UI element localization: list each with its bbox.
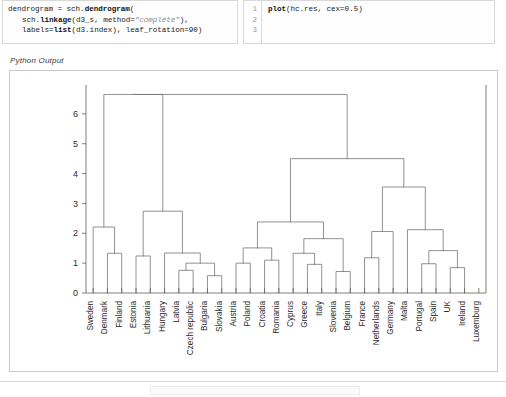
dendrogram-link	[372, 231, 393, 293]
dendrogram-link	[104, 94, 163, 227]
leaf-label: Denmark	[100, 300, 109, 334]
leaf-label: Sweden	[86, 301, 95, 331]
y-axis-tick-label: 5	[73, 139, 78, 149]
dendrogram-link	[186, 263, 215, 276]
code-keyword: plot	[268, 5, 286, 13]
dendrogram-link	[429, 251, 458, 268]
code-text: (hc.res, cex=0.5)	[286, 5, 363, 13]
leaf-label: Italy	[315, 300, 324, 316]
dendrogram-link	[165, 253, 201, 293]
dendrogram-link	[93, 227, 114, 293]
code-keyword: dendrogram	[85, 5, 130, 13]
dendrogram-link	[407, 230, 443, 293]
line-number: 1	[244, 4, 257, 15]
dendrogram-link	[293, 253, 314, 293]
leaf-labels: SwedenDenmarkFinlandEstoniaLithuaniaHung…	[86, 300, 481, 355]
code-line-2: sch.linkage(d3_s, method="complete"),	[8, 15, 233, 26]
dendrogram-link	[265, 260, 279, 293]
dendrogram-link	[304, 239, 343, 272]
leaf-label: Croatia	[258, 301, 267, 328]
leaf-label: Lithuania	[143, 301, 152, 335]
code-line-1: dendrogram = sch.dendrogram(	[8, 4, 233, 15]
dendrogram-links	[93, 94, 464, 293]
leaf-label: Netherlands	[372, 301, 381, 345]
notebook-cells: dendrogram = sch.dendrogram( sch.linkage…	[0, 0, 506, 46]
code-text: (d3_s, method=	[72, 16, 135, 24]
leaf-label: Romania	[272, 301, 281, 334]
dendrogram-link	[307, 264, 321, 293]
leaf-label: Portugal	[415, 301, 424, 332]
leaf-label: Bulgaria	[200, 301, 209, 331]
dendrogram-link	[257, 222, 323, 248]
leaf-label: Cyprus	[286, 301, 295, 327]
dendrogram-link	[382, 187, 425, 231]
dendrogram-link	[336, 272, 350, 293]
dendrogram-link	[290, 159, 403, 222]
code-text: (d3.index), leaf_rotation=90)	[72, 26, 203, 34]
code-text: (	[130, 5, 135, 13]
line-number: 2	[244, 15, 257, 26]
dendrogram-link	[143, 211, 182, 256]
python-code-cell[interactable]: dendrogram = sch.dendrogram( sch.linkage…	[2, 0, 238, 44]
code-line-3: labels=list(d3.index), leaf_rotation=90)	[8, 25, 233, 36]
r-code-cell[interactable]: 1 2 3 plot(hc.res, cex=0.5)	[243, 0, 495, 44]
dendrogram-link	[179, 270, 193, 293]
code-line-1: plot(hc.res, cex=0.5)	[268, 4, 494, 15]
code-keyword: list	[54, 26, 72, 34]
leaf-label: France	[358, 301, 367, 327]
y-axis-tick-label: 4	[73, 169, 78, 179]
code-string: "complete"	[135, 16, 180, 24]
leaf-label: Ireland	[458, 301, 467, 326]
leaf-label: Slovakia	[215, 301, 224, 332]
x-axis	[86, 85, 486, 293]
page-footer-placeholder	[150, 386, 360, 395]
dendrogram-link	[243, 248, 272, 263]
leaf-label: Czech republic	[186, 301, 195, 355]
y-axis-tick-label: 2	[73, 228, 78, 238]
code-keyword: linkage	[40, 16, 72, 24]
line-number-gutter: 1 2 3	[244, 1, 261, 43]
dendrogram-plot: 0123456 SwedenDenmarkFinlandEstoniaLithu…	[10, 71, 499, 373]
y-axis-tick-label: 0	[73, 288, 78, 298]
leaf-label: Slovenia	[329, 301, 338, 333]
leaf-label: Malta	[400, 301, 409, 321]
python-output-label: Python Output	[10, 56, 64, 65]
leaf-label: Belgium	[343, 301, 352, 331]
dendrogram-link	[136, 256, 150, 293]
leaf-label: Hungary	[158, 300, 167, 332]
y-axis-tick-label: 1	[73, 258, 78, 268]
code-text: labels=	[22, 26, 54, 34]
dendrogram-link	[450, 268, 464, 293]
leaf-label: Estonia	[129, 301, 138, 329]
dendrogram-link	[207, 276, 221, 293]
line-number: 3	[244, 25, 257, 36]
leaf-label: Spain	[429, 301, 438, 322]
y-axis-tick-label: 3	[73, 199, 78, 209]
dendrogram-link	[422, 264, 436, 293]
leaf-label: Germany	[386, 300, 395, 335]
dendrogram-link-root	[133, 94, 347, 158]
code-text: sch.	[22, 16, 40, 24]
dendrogram-figure: 0123456 SwedenDenmarkFinlandEstoniaLithu…	[9, 70, 498, 372]
page-divider	[0, 381, 506, 382]
code-text: dendrogram = sch.	[8, 5, 85, 13]
dendrogram-link	[236, 263, 250, 293]
leaf-label: UK	[443, 300, 452, 312]
leaf-label: Latvia	[172, 301, 181, 323]
leaf-label: Luxemburg	[472, 301, 481, 342]
leaf-label: Austria	[229, 301, 238, 327]
code-text: ),	[180, 16, 189, 24]
leaf-label: Finland	[115, 301, 124, 328]
dendrogram-link	[365, 258, 379, 293]
leaf-label: Greece	[300, 301, 309, 328]
y-axis-tick-label: 6	[73, 109, 78, 119]
dendrogram-link	[107, 253, 121, 293]
leaf-label: Poland	[243, 301, 252, 327]
r-code-body[interactable]: plot(hc.res, cex=0.5)	[261, 1, 494, 43]
y-axis: 0123456	[73, 85, 86, 298]
